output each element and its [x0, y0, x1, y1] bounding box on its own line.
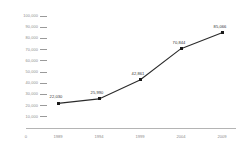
data-point-label: 42,861	[132, 71, 145, 77]
x-axis-line	[26, 128, 236, 129]
x-axis-tick-label: 1999	[120, 133, 160, 140]
origin-label: 0	[14, 133, 38, 140]
y-axis-tick-label: 50,000	[0, 68, 38, 76]
line-chart: 100,00090,00080,00070,00060,00050,00040,…	[0, 0, 243, 156]
data-point-marker	[180, 47, 183, 50]
y-axis-tick-mark	[40, 16, 47, 17]
y-axis-tick-label: 60,000	[0, 57, 38, 65]
y-axis-tick-mark	[40, 49, 47, 50]
data-point-label: 70,844	[173, 40, 186, 46]
data-point-label: 25,990	[91, 90, 104, 96]
y-axis-tick-mark	[40, 27, 47, 28]
data-point-marker	[139, 78, 142, 81]
y-axis-tick-label: 70,000	[0, 46, 38, 54]
x-axis-tick-label: 2009	[202, 133, 242, 140]
y-axis-tick-label: 20,000	[0, 102, 38, 110]
y-axis-tick-mark	[40, 105, 47, 106]
data-point-marker	[57, 102, 60, 105]
y-axis-tick-label: 80,000	[0, 34, 38, 42]
y-axis-tick-mark	[40, 38, 47, 39]
y-axis-tick-mark	[40, 116, 47, 117]
y-axis-tick-mark	[40, 60, 47, 61]
y-axis-tick-label: 10,000	[0, 113, 38, 121]
y-axis-tick-mark	[40, 94, 47, 95]
y-axis-tick-mark	[40, 72, 47, 73]
x-axis-tick-label: 1989	[38, 133, 78, 140]
data-point-label: 22,030	[50, 94, 63, 100]
y-axis-tick-label: 100,000	[0, 12, 38, 20]
y-axis-tick-label: 90,000	[0, 23, 38, 31]
x-axis-tick-label: 1994	[79, 133, 119, 140]
y-axis-tick-mark	[40, 83, 47, 84]
data-point-label: 85,066	[214, 24, 227, 30]
data-point-marker	[221, 31, 224, 34]
x-axis-tick-label: 2004	[161, 133, 201, 140]
y-axis-tick-label: 40,000	[0, 79, 38, 87]
y-axis-tick-label: 30,000	[0, 90, 38, 98]
data-point-marker	[98, 97, 101, 100]
